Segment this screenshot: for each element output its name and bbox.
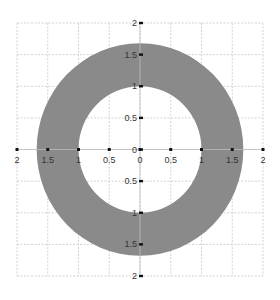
y-tick-mark (139, 117, 143, 119)
x-tick-mark (108, 148, 111, 151)
x-tick-labels: 21.510.500.511.52 (14, 155, 265, 165)
y-tick-mark (139, 275, 143, 277)
x-tick-mark (16, 148, 19, 151)
y-tick-label: 1 (132, 81, 137, 91)
x-tick-mark (262, 148, 265, 151)
x-tick-label: 0.5 (103, 155, 116, 165)
y-tick-label: 2 (132, 18, 137, 28)
y-tick-mark (139, 212, 143, 214)
x-tick-label: 2 (14, 155, 19, 165)
x-tick-label: 1 (76, 155, 81, 165)
x-tick-mark (231, 148, 234, 151)
y-tick-mark (139, 180, 143, 182)
y-tick-mark (139, 148, 143, 150)
x-tick-label: 1.5 (226, 155, 239, 165)
y-tick-label: 0 (132, 145, 137, 155)
x-tick-label: 0 (137, 155, 142, 165)
y-tick-label: 0.5 (124, 113, 137, 123)
y-tick-label: 1 (132, 208, 137, 218)
x-tick-mark (77, 148, 80, 151)
x-tick-mark (200, 148, 203, 151)
y-tick-label: 1.5 (124, 239, 137, 249)
x-tick-label: 1.5 (41, 155, 54, 165)
x-tick-mark (169, 148, 172, 151)
y-tick-label: 0.5 (124, 176, 137, 186)
y-tick-mark (139, 22, 143, 24)
y-tick-mark (139, 243, 143, 245)
axes (16, 22, 265, 277)
x-tick-label: 1 (199, 155, 204, 165)
annulus-chart: 21.510.500.511.52 21.510.500.511.52 (0, 0, 280, 300)
y-tick-mark (139, 85, 143, 87)
x-tick-label: 2 (260, 155, 265, 165)
y-tick-label: 1.5 (124, 50, 137, 60)
x-tick-mark (46, 148, 49, 151)
y-tick-mark (139, 53, 143, 55)
y-tick-label: 2 (132, 271, 137, 281)
x-tick-label: 0.5 (164, 155, 177, 165)
